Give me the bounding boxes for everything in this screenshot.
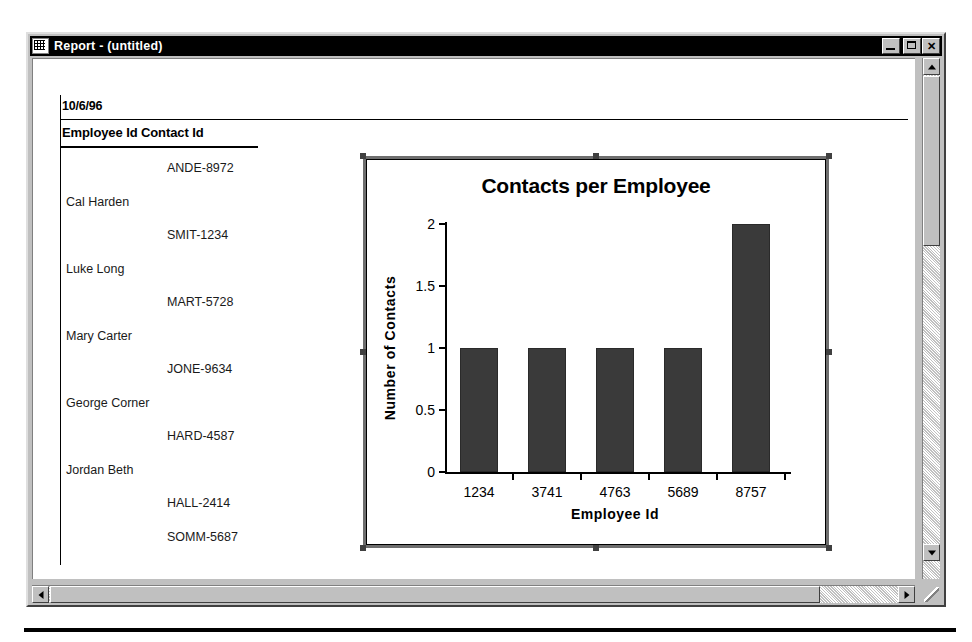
chart-bar xyxy=(596,348,634,472)
chart-x-tick-label: 5689 xyxy=(667,484,698,500)
scrollbar-corner xyxy=(922,585,940,603)
report-column-rule xyxy=(60,146,258,148)
close-button[interactable]: ✕ xyxy=(922,38,940,54)
scroll-left-arrow-icon xyxy=(38,591,43,599)
report-contact-id: SMIT-1234 xyxy=(167,228,228,242)
chart-y-tick xyxy=(439,347,445,349)
chart-y-tick-label: 1 xyxy=(427,340,435,356)
scroll-up-button[interactable] xyxy=(923,58,940,75)
report-page-canvas[interactable]: 10/6/96 Employee Id Contact Id ANDE-8972… xyxy=(32,58,915,579)
report-employee-name: Jordan Beth xyxy=(66,463,133,477)
maximize-button[interactable] xyxy=(903,38,921,54)
scroll-down-arrow-icon xyxy=(928,550,936,555)
chart-x-tick xyxy=(784,474,786,480)
report-left-rule xyxy=(60,95,61,565)
scroll-left-button[interactable] xyxy=(32,586,49,603)
window-client-area: 10/6/96 Employee Id Contact Id ANDE-8972… xyxy=(32,58,940,603)
chart-x-tick-label: 8757 xyxy=(735,484,766,500)
resize-handle-s[interactable] xyxy=(593,545,599,551)
resize-handle-sw[interactable] xyxy=(360,545,366,551)
chart-x-tick xyxy=(648,474,650,480)
chart-y-tick-label: 0.5 xyxy=(416,402,435,418)
report-window: Report - (untitled) ✕ 10/6/96 Employee I… xyxy=(26,32,946,607)
report-column-header: Employee Id Contact Id xyxy=(62,125,204,140)
resize-grip-icon[interactable] xyxy=(924,587,939,602)
report-contact-id: SOMM-5687 xyxy=(167,530,238,544)
chart-y-tick xyxy=(439,285,445,287)
chart-object[interactable]: Contacts per Employee Number of Contacts… xyxy=(363,156,829,548)
report-employee-name: Mary Carter xyxy=(66,329,132,343)
scroll-right-arrow-icon xyxy=(904,591,909,599)
chart-y-axis-label: Number of Contacts xyxy=(381,222,399,474)
chart-y-tick xyxy=(439,471,445,473)
chart-x-tick xyxy=(716,474,718,480)
resize-handle-nw[interactable] xyxy=(360,153,366,159)
chart-title: Contacts per Employee xyxy=(363,174,829,198)
report-header-rule xyxy=(60,119,908,120)
window-titlebar[interactable]: Report - (untitled) ✕ xyxy=(30,36,942,56)
chart-bar xyxy=(664,348,702,472)
horizontal-scroll-thumb[interactable] xyxy=(50,586,820,603)
chart-x-axis-label: Employee Id xyxy=(445,506,785,522)
window-title: Report - (untitled) xyxy=(54,39,882,53)
chart-y-tick-label: 0 xyxy=(427,464,435,480)
chart-x-tick-label: 3741 xyxy=(531,484,562,500)
chart-x-tick-label: 4763 xyxy=(599,484,630,500)
chart-bar xyxy=(528,348,566,472)
scroll-right-button[interactable] xyxy=(898,586,915,603)
window-controls: ✕ xyxy=(882,38,940,54)
resize-handle-ne[interactable] xyxy=(826,153,832,159)
chart-y-tick xyxy=(439,223,445,225)
report-contact-id: ANDE-8972 xyxy=(167,161,234,175)
resize-handle-n[interactable] xyxy=(593,153,599,159)
chart-y-tick-label: 1.5 xyxy=(416,278,435,294)
chart-x-tick xyxy=(580,474,582,480)
chart-y-tick xyxy=(439,409,445,411)
resize-handle-e[interactable] xyxy=(826,349,832,355)
chart-x-tick-label: 1234 xyxy=(463,484,494,500)
report-contact-id: HARD-4587 xyxy=(167,429,234,443)
minimize-button[interactable] xyxy=(882,38,900,54)
chart-x-axis xyxy=(445,472,791,474)
vertical-scroll-thumb[interactable] xyxy=(923,76,940,246)
scroll-up-arrow-icon xyxy=(928,64,936,69)
chart-x-tick xyxy=(512,474,514,480)
chart-y-tick-label: 2 xyxy=(427,216,435,232)
screen: Report - (untitled) ✕ 10/6/96 Employee I… xyxy=(0,0,972,642)
horizontal-scrollbar[interactable] xyxy=(32,585,915,603)
report-contact-id: MART-5728 xyxy=(167,295,233,309)
chart-plot-area: 00.511.52 12343741476356898757 xyxy=(445,222,785,474)
report-employee-name: Luke Long xyxy=(66,262,124,276)
resize-handle-se[interactable] xyxy=(826,545,832,551)
report-employee-name: Cal Harden xyxy=(66,195,129,209)
chart-y-axis xyxy=(445,222,447,474)
chart-bar xyxy=(460,348,498,472)
resize-handle-w[interactable] xyxy=(360,349,366,355)
page-bottom-rule xyxy=(24,628,956,632)
report-grid-icon xyxy=(32,38,49,54)
scroll-down-button[interactable] xyxy=(923,544,940,561)
report-contact-id: HALL-2414 xyxy=(167,496,230,510)
chart-bar xyxy=(732,224,770,472)
vertical-scrollbar[interactable] xyxy=(922,58,940,579)
report-employee-name: George Corner xyxy=(66,396,149,410)
report-contact-id: JONE-9634 xyxy=(167,362,232,376)
report-date: 10/6/96 xyxy=(62,99,102,113)
